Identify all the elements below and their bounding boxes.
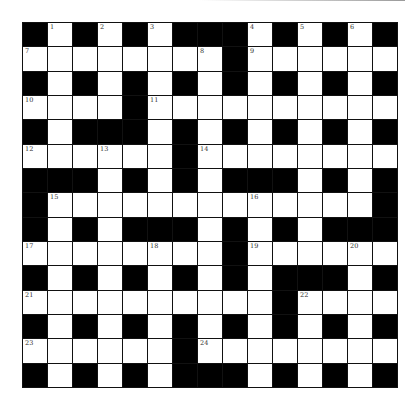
crossword-cell[interactable] — [148, 291, 172, 314]
crossword-cell[interactable] — [248, 145, 272, 168]
crossword-cell[interactable] — [98, 266, 122, 289]
crossword-cell[interactable] — [48, 339, 72, 362]
crossword-cell[interactable]: 15 — [48, 193, 72, 216]
crossword-cell[interactable] — [248, 96, 272, 119]
crossword-cell[interactable] — [298, 315, 322, 338]
crossword-cell[interactable] — [73, 339, 97, 362]
crossword-cell[interactable] — [248, 364, 272, 387]
crossword-cell[interactable] — [198, 169, 222, 192]
crossword-cell[interactable] — [348, 72, 372, 95]
crossword-cell[interactable] — [373, 96, 397, 119]
crossword-cell[interactable] — [73, 145, 97, 168]
crossword-cell[interactable]: 24 — [198, 339, 222, 362]
crossword-cell[interactable]: 17 — [23, 242, 47, 265]
crossword-cell[interactable] — [148, 72, 172, 95]
crossword-cell[interactable] — [348, 315, 372, 338]
crossword-cell[interactable] — [98, 291, 122, 314]
crossword-cell[interactable]: 21 — [23, 291, 47, 314]
crossword-cell[interactable] — [198, 193, 222, 216]
crossword-cell[interactable] — [298, 193, 322, 216]
crossword-cell[interactable] — [173, 193, 197, 216]
crossword-cell[interactable] — [273, 339, 297, 362]
crossword-cell[interactable] — [98, 315, 122, 338]
crossword-cell[interactable] — [248, 120, 272, 143]
crossword-cell[interactable] — [323, 47, 347, 70]
crossword-cell[interactable] — [373, 291, 397, 314]
crossword-cell[interactable] — [298, 242, 322, 265]
crossword-cell[interactable]: 19 — [248, 242, 272, 265]
crossword-cell[interactable] — [248, 339, 272, 362]
crossword-cell[interactable] — [273, 47, 297, 70]
crossword-cell[interactable] — [48, 364, 72, 387]
crossword-cell[interactable] — [173, 96, 197, 119]
crossword-cell[interactable]: 22 — [298, 291, 322, 314]
crossword-cell[interactable]: 4 — [248, 23, 272, 46]
crossword-cell[interactable] — [298, 72, 322, 95]
crossword-cell[interactable] — [223, 193, 247, 216]
crossword-cell[interactable] — [48, 291, 72, 314]
crossword-cell[interactable] — [48, 315, 72, 338]
crossword-cell[interactable] — [148, 120, 172, 143]
crossword-cell[interactable] — [198, 96, 222, 119]
crossword-cell[interactable]: 20 — [348, 242, 372, 265]
crossword-cell[interactable] — [248, 291, 272, 314]
crossword-cell[interactable] — [48, 242, 72, 265]
crossword-cell[interactable]: 7 — [23, 47, 47, 70]
crossword-cell[interactable] — [73, 47, 97, 70]
crossword-cell[interactable] — [348, 364, 372, 387]
crossword-cell[interactable] — [48, 218, 72, 241]
crossword-cell[interactable]: 6 — [348, 23, 372, 46]
crossword-cell[interactable] — [298, 218, 322, 241]
crossword-cell[interactable] — [248, 266, 272, 289]
crossword-cell[interactable] — [148, 364, 172, 387]
crossword-cell[interactable] — [98, 242, 122, 265]
crossword-cell[interactable]: 14 — [198, 145, 222, 168]
crossword-cell[interactable] — [198, 266, 222, 289]
crossword-cell[interactable] — [348, 291, 372, 314]
crossword-cell[interactable] — [348, 266, 372, 289]
crossword-cell[interactable] — [373, 47, 397, 70]
crossword-cell[interactable] — [123, 47, 147, 70]
crossword-cell[interactable] — [298, 145, 322, 168]
crossword-cell[interactable] — [223, 339, 247, 362]
crossword-cell[interactable] — [348, 47, 372, 70]
crossword-cell[interactable] — [198, 242, 222, 265]
crossword-cell[interactable]: 1 — [48, 23, 72, 46]
crossword-cell[interactable] — [373, 242, 397, 265]
crossword-cell[interactable]: 10 — [23, 96, 47, 119]
crossword-cell[interactable] — [298, 169, 322, 192]
crossword-cell[interactable] — [148, 169, 172, 192]
crossword-cell[interactable] — [323, 242, 347, 265]
crossword-cell[interactable] — [248, 315, 272, 338]
crossword-cell[interactable] — [198, 72, 222, 95]
crossword-cell[interactable] — [198, 291, 222, 314]
crossword-cell[interactable] — [48, 266, 72, 289]
crossword-cell[interactable] — [98, 169, 122, 192]
crossword-cell[interactable] — [148, 339, 172, 362]
crossword-cell[interactable] — [198, 315, 222, 338]
crossword-cell[interactable] — [323, 145, 347, 168]
crossword-cell[interactable] — [273, 145, 297, 168]
crossword-cell[interactable]: 2 — [98, 23, 122, 46]
crossword-cell[interactable] — [123, 242, 147, 265]
crossword-cell[interactable] — [73, 242, 97, 265]
crossword-cell[interactable] — [98, 364, 122, 387]
crossword-cell[interactable] — [148, 193, 172, 216]
crossword-cell[interactable] — [98, 72, 122, 95]
crossword-cell[interactable] — [98, 193, 122, 216]
crossword-cell[interactable] — [148, 266, 172, 289]
crossword-cell[interactable] — [298, 364, 322, 387]
crossword-cell[interactable]: 16 — [248, 193, 272, 216]
crossword-cell[interactable] — [48, 96, 72, 119]
crossword-cell[interactable] — [248, 218, 272, 241]
crossword-cell[interactable] — [248, 72, 272, 95]
crossword-cell[interactable] — [298, 339, 322, 362]
crossword-cell[interactable] — [98, 96, 122, 119]
crossword-cell[interactable] — [198, 120, 222, 143]
crossword-cell[interactable]: 3 — [148, 23, 172, 46]
crossword-cell[interactable] — [223, 96, 247, 119]
crossword-cell[interactable] — [98, 339, 122, 362]
crossword-cell[interactable] — [348, 96, 372, 119]
crossword-cell[interactable] — [348, 169, 372, 192]
crossword-cell[interactable] — [123, 291, 147, 314]
